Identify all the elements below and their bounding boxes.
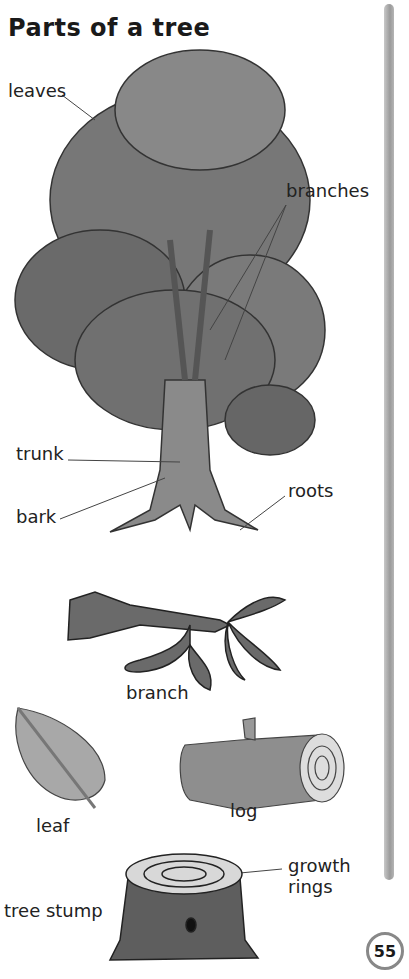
label-roots: roots: [288, 480, 333, 501]
label-log: log: [230, 800, 257, 821]
page-edge-bar: [384, 4, 394, 880]
tree-stump-illustration: [110, 854, 258, 960]
label-branch: branch: [126, 682, 189, 703]
label-rings: rings: [288, 876, 333, 897]
leaf-illustration: [16, 708, 105, 808]
label-leaf: leaf: [36, 815, 69, 836]
page-number: 55: [374, 942, 396, 961]
label-trunk: trunk: [16, 443, 64, 464]
label-tree-stump: tree stump: [4, 900, 103, 921]
branch-illustration: [68, 592, 285, 690]
page-title: Parts of a tree: [8, 14, 210, 42]
label-leaves: leaves: [8, 80, 66, 101]
label-bark: bark: [16, 506, 56, 527]
label-growth: growth: [288, 855, 351, 876]
label-branches: branches: [286, 180, 369, 201]
page-number-badge: 55: [366, 932, 404, 970]
log-illustration: [180, 718, 344, 810]
